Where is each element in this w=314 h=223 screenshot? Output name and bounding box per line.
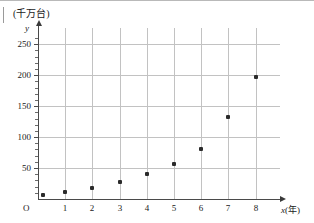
x-axis-tick-label: 8 xyxy=(250,204,262,213)
x-axis-tick-label: 7 xyxy=(222,204,234,213)
y-axis-arrow-icon xyxy=(36,20,42,26)
y-axis-minor-tick xyxy=(35,180,38,181)
y-axis-minor-tick xyxy=(35,57,38,58)
x-axis-tick-label: 1 xyxy=(59,204,71,213)
data-point[interactable] xyxy=(199,147,203,151)
gridline-horizontal xyxy=(38,168,280,169)
data-point[interactable] xyxy=(63,190,67,194)
data-point[interactable] xyxy=(226,115,230,119)
gridline-vertical xyxy=(120,28,121,199)
scatter-plot-area: 5010015020025012345678 xyxy=(0,0,314,223)
gridline-vertical xyxy=(256,28,257,199)
y-axis-minor-tick xyxy=(35,187,38,188)
y-axis-minor-tick xyxy=(35,69,38,70)
y-axis-minor-tick xyxy=(35,38,38,39)
y-axis-minor-tick xyxy=(35,100,38,101)
y-axis-tick-label: 100 xyxy=(4,133,31,142)
x-axis-tick-label: 4 xyxy=(141,204,153,213)
y-axis-minor-tick xyxy=(35,174,38,175)
y-axis-tick-label: 50 xyxy=(4,164,31,173)
y-axis-minor-tick xyxy=(35,162,38,163)
data-point[interactable] xyxy=(254,75,258,79)
gridline-vertical xyxy=(92,28,93,199)
data-point[interactable] xyxy=(172,162,176,166)
y-axis-tick-label: 150 xyxy=(4,102,31,111)
y-axis-minor-tick xyxy=(35,63,38,64)
gridline-vertical xyxy=(201,28,202,199)
gridline-horizontal xyxy=(38,137,280,138)
x-axis-tick-label: 5 xyxy=(168,204,180,213)
x-axis-tick-label: 3 xyxy=(114,204,126,213)
data-point[interactable] xyxy=(90,186,94,190)
y-axis-major-tick xyxy=(34,137,38,138)
y-axis-minor-tick xyxy=(35,119,38,120)
y-axis-major-tick xyxy=(34,44,38,45)
y-axis-minor-tick xyxy=(35,81,38,82)
y-axis-major-tick xyxy=(34,168,38,169)
gridline-vertical xyxy=(65,28,66,199)
y-axis-tick-label: 250 xyxy=(4,40,31,49)
data-point[interactable] xyxy=(145,172,149,176)
y-axis-minor-tick xyxy=(35,193,38,194)
y-axis-minor-tick xyxy=(35,156,38,157)
y-axis-minor-tick xyxy=(35,125,38,126)
y-axis-minor-tick xyxy=(35,94,38,95)
y-axis-minor-tick xyxy=(35,112,38,113)
y-axis-minor-tick xyxy=(35,149,38,150)
gridline-vertical xyxy=(228,28,229,199)
gridline-vertical xyxy=(174,28,175,199)
gridline-horizontal xyxy=(38,106,280,107)
x-axis-arrow-icon xyxy=(280,196,286,202)
y-axis-minor-tick xyxy=(35,88,38,89)
data-point[interactable] xyxy=(118,180,122,184)
y-axis-minor-tick xyxy=(35,143,38,144)
figure-container: (千万台) y x(年) O 5010015020025012345678 xyxy=(0,0,314,223)
y-axis-minor-tick xyxy=(35,50,38,51)
gridline-horizontal xyxy=(38,44,280,45)
x-axis-tick-label: 6 xyxy=(195,204,207,213)
y-axis-minor-tick xyxy=(35,131,38,132)
y-axis-line xyxy=(38,26,39,200)
y-axis-major-tick xyxy=(34,75,38,76)
y-axis-tick-label: 200 xyxy=(4,71,31,80)
gridline-horizontal xyxy=(38,75,280,76)
y-axis-major-tick xyxy=(34,106,38,107)
x-axis-line xyxy=(38,199,280,200)
x-axis-tick-label: 2 xyxy=(86,204,98,213)
data-point[interactable] xyxy=(41,193,45,197)
